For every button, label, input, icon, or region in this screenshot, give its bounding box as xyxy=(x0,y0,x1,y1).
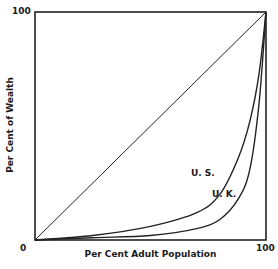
origin-tick: 0 xyxy=(20,243,26,253)
equality-line xyxy=(35,12,266,240)
y-axis-label: Per Cent of Wealth xyxy=(5,65,15,185)
us-label: U. S. xyxy=(191,168,215,178)
lorenz-chart xyxy=(0,0,278,269)
y-tick-100: 100 xyxy=(12,6,31,16)
uk-label: U. K. xyxy=(212,189,236,199)
x-axis-label: Per Cent Adult Population xyxy=(35,249,266,259)
